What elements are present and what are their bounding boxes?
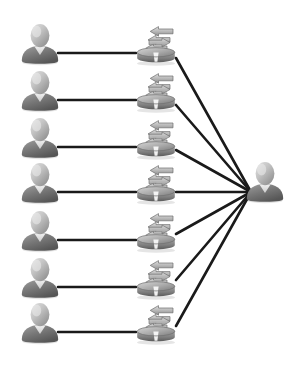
client-node-5[interactable]: User 5 — [22, 211, 58, 252]
link-router-2-server — [176, 105, 251, 192]
client-router-links — [58, 53, 136, 332]
router-node-7[interactable]: Router 7 — [137, 306, 175, 345]
router-node-2[interactable]: Router 2 — [137, 74, 175, 113]
client-node-3[interactable]: User 3 — [22, 118, 58, 159]
router-node-4[interactable]: Router 4 — [137, 166, 175, 205]
router-node-1[interactable]: Router 1 — [137, 27, 175, 66]
router-node-5[interactable]: Router 5 — [137, 214, 175, 253]
client-node-2[interactable]: User 2 — [22, 71, 58, 112]
client-node-6[interactable]: User 6 — [22, 258, 58, 299]
router-server-links — [176, 58, 251, 326]
client-node-1[interactable]: User 1 — [22, 24, 58, 65]
server-node[interactable]: Central user — [247, 162, 283, 203]
link-router-6-server — [176, 192, 251, 280]
router-node-3[interactable]: Router 3 — [137, 121, 175, 160]
edge-layer: User 1User 2User 3User 4User 5User 6User… — [0, 0, 300, 375]
client-node-4[interactable]: User 4 — [22, 163, 58, 204]
router-node-6[interactable]: Router 6 — [137, 261, 175, 300]
client-node-7[interactable]: User 7 — [22, 303, 58, 344]
network-diagram: User 1User 2User 3User 4User 5User 6User… — [0, 0, 300, 375]
